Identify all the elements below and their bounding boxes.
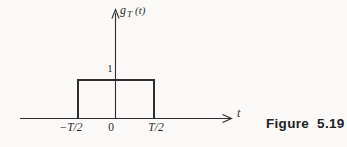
y-axis-label-subscript: T (127, 9, 132, 19)
y-axis-label: gT(t) (120, 4, 145, 16)
x-tick-plus-T-half: T/2 (137, 122, 175, 134)
y-axis-label-argument: (t) (135, 4, 145, 16)
y-axis-label-base: g (120, 3, 126, 17)
pulse-function-figure: gT(t) 1 −T/2 0 T/2 t Figure 5.19 (0, 0, 347, 147)
x-tick-minus-T-half: −T/2 (50, 122, 92, 134)
x-axis-label: t (237, 107, 240, 119)
figure-caption: Figure 5.19 (266, 117, 345, 131)
amplitude-label: 1 (104, 63, 116, 74)
x-tick-zero: 0 (102, 122, 120, 134)
